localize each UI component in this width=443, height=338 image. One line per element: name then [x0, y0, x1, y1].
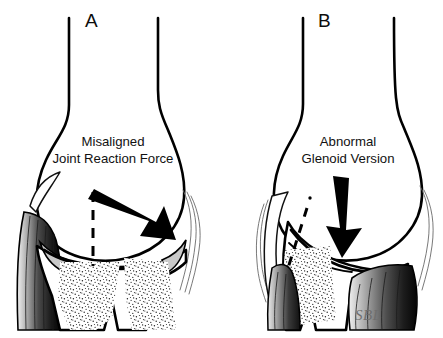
panel-letter-b: B	[318, 10, 331, 31]
panel-a-group: A Misaligned Joint Reaction Force	[17, 10, 200, 335]
capsule-strand-a-3	[189, 196, 200, 294]
caption-a-line1: Misaligned	[81, 134, 144, 149]
caption-a-line2: Joint Reaction Force	[53, 151, 174, 166]
artist-signature: SBL	[355, 307, 382, 323]
caption-b-line2: Glenoid Version	[301, 151, 394, 166]
panel-letter-a: A	[85, 10, 98, 31]
shoulder-illustration: A Misaligned Joint Reaction Force	[0, 0, 443, 338]
caption-b-line1: Abnormal	[320, 134, 377, 149]
figure-container: A Misaligned Joint Reaction Force	[0, 0, 443, 338]
panel-b-group: B Abnormal Glenoid Version	[256, 10, 433, 334]
